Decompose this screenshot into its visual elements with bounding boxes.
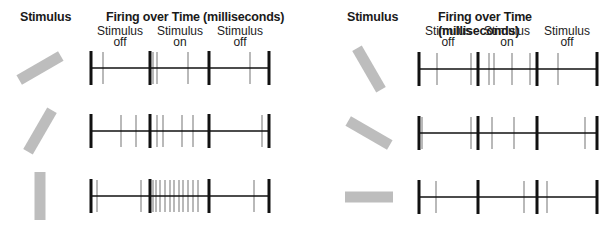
spike-raster-diagram xyxy=(0,0,614,226)
stimulus-bar xyxy=(345,116,392,150)
stimulus-bar xyxy=(16,51,63,85)
stimulus-bar xyxy=(35,172,46,220)
stimulus-bar xyxy=(23,107,57,154)
stimulus-bar xyxy=(345,192,393,203)
stimulus-bar xyxy=(352,45,386,92)
